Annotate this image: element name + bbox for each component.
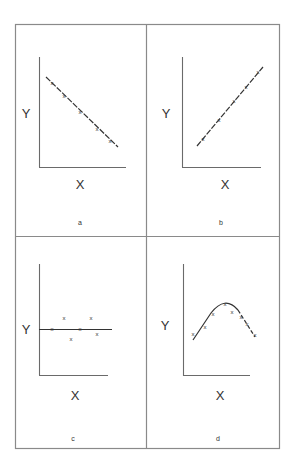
point-marker: x [79,326,82,332]
data-points: x x x x x x x x [192,301,257,338]
y-axis-label: Y [22,322,31,337]
point-marker: x [51,326,54,332]
x-axis-label: X [76,177,85,192]
point-marker: x [240,314,243,320]
panel-caption: c [71,435,75,442]
point-marker: x [109,138,112,144]
point-marker: x [254,332,257,338]
point-marker: x [212,311,215,317]
panel-a: x x x x x Y X a [22,57,126,226]
point-marker: x [192,331,195,337]
point-marker: x [63,93,66,99]
fit-line [197,67,263,146]
point-marker: x [257,69,260,75]
panel-d: x x x x x x x x Y X d [161,264,257,442]
fit-line [46,77,118,147]
y-axis-label: Y [162,106,171,121]
point-marker: x [96,126,99,132]
point-marker: x [246,321,249,327]
panel-caption: d [216,435,220,442]
point-marker: x [96,331,99,337]
point-marker: x [233,98,236,104]
point-marker: x [231,309,234,315]
panel-b: x x x x x Y X b [162,57,263,226]
point-marker: x [79,109,82,115]
point-marker: x [63,315,66,321]
point-marker: x [202,136,205,142]
correlation-figure: x x x x x Y X a x x x x x Y X b x x [0,0,292,473]
point-marker: x [51,80,54,86]
x-axis-label: X [71,388,80,403]
panel-caption: a [78,219,82,226]
y-axis-label: Y [161,318,170,333]
x-axis-label: X [216,388,225,403]
panel-c: x x x x x x Y X c [22,264,112,442]
point-marker: x [218,117,221,123]
point-marker: x [204,324,207,330]
data-points: x x x x x x [51,315,99,342]
point-marker: x [90,315,93,321]
point-marker: x [70,336,73,342]
point-marker: x [224,301,227,307]
y-axis-label: Y [22,106,31,121]
panel-caption: b [219,219,223,226]
point-marker: x [245,84,248,90]
x-axis-label: X [221,177,230,192]
